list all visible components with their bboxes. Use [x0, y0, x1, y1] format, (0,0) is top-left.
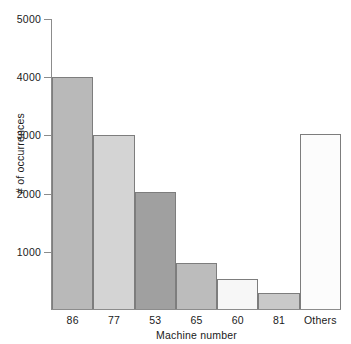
plot-area: [52, 19, 341, 310]
x-axis-tick-label: 77: [93, 314, 134, 326]
x-axis-line: [51, 309, 341, 310]
y-axis-title: # of occurrences: [15, 84, 26, 224]
bar-81: [258, 293, 299, 310]
bar-86: [52, 77, 93, 310]
bar-chart: 10002000300040005000 # of occurrences 86…: [0, 0, 351, 344]
x-axis-title: Machine number: [52, 329, 341, 341]
y-axis-tick: [44, 252, 51, 253]
y-axis-tick: [44, 194, 51, 195]
x-axis-tick-labels: 867753656081Others: [52, 314, 341, 330]
bar-53: [135, 192, 176, 310]
bar-65: [176, 263, 217, 310]
x-axis-tick-label: 60: [217, 314, 258, 326]
y-axis-tick-label: 4000: [1, 72, 41, 83]
bar-60: [217, 279, 258, 310]
x-axis-tick-label: Others: [300, 314, 341, 326]
bar-others: [300, 134, 341, 310]
x-axis-tick-label: 53: [135, 314, 176, 326]
y-axis-tick-label: 5000: [1, 14, 41, 25]
y-axis-tick-label: 1000: [1, 247, 41, 258]
x-axis-tick-label: 65: [176, 314, 217, 326]
bar-77: [93, 135, 134, 310]
y-axis-tick: [44, 77, 51, 78]
x-axis-tick-label: 81: [258, 314, 299, 326]
y-axis-tick: [44, 135, 51, 136]
x-axis-tick-label: 86: [52, 314, 93, 326]
y-axis-tick: [44, 19, 51, 20]
